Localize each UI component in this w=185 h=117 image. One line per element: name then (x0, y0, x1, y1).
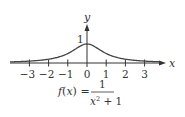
y-axis-arrow-icon (85, 24, 90, 31)
y-tick-label-1: 1 (77, 33, 84, 45)
x-tick-labels: −3−2−10123 (20, 68, 148, 80)
formula-denominator-rest: + 1 (100, 95, 122, 107)
x-tick-label: −1 (58, 68, 73, 80)
function-formula: f(x) = 1 x2 + 1 (57, 78, 122, 107)
function-plot: x y 1 −3−2−10123 f(x) = 1 x2 + 1 (0, 0, 185, 117)
function-curve (10, 44, 160, 62)
x-tick-label: 3 (141, 68, 148, 80)
x-tick-label: −2 (39, 68, 54, 80)
formula-denominator: x2 + 1 (90, 95, 122, 107)
formula-numerator: 1 (99, 78, 106, 90)
y-axis-label: y (83, 11, 91, 24)
x-tick-label: 2 (122, 68, 129, 80)
x-tick-label: 0 (84, 68, 91, 80)
x-axis-label: x (169, 57, 176, 70)
x-axis-arrow-icon (159, 61, 166, 66)
x-tick-label: −3 (20, 68, 35, 80)
formula-lhs: f(x) = (57, 85, 90, 98)
